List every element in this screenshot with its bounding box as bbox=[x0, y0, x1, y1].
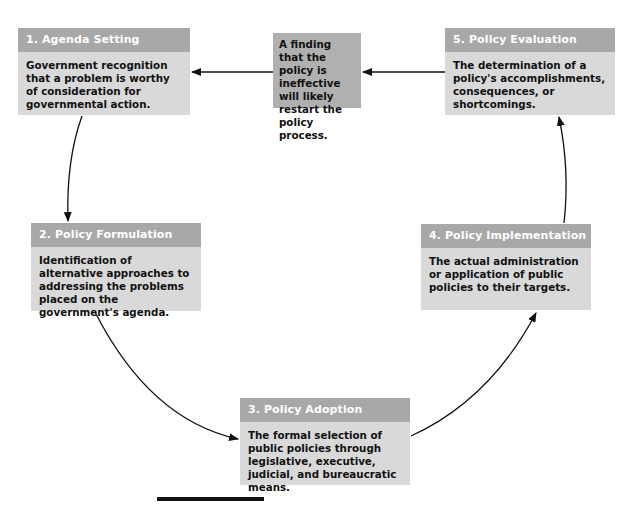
feedback-note: A finding that the policy is ineffective… bbox=[273, 33, 361, 108]
arrow-formulation-to-adoption bbox=[95, 312, 238, 439]
stage-title: 3. Policy Adoption bbox=[240, 398, 410, 422]
stage-description: Government recognition that a problem is… bbox=[18, 52, 190, 117]
stage-description: Identification of alternative approaches… bbox=[31, 247, 201, 325]
stage-policy-adoption: 3. Policy Adoption The formal selection … bbox=[240, 398, 410, 485]
stage-title: 4. Policy Implementation bbox=[421, 224, 591, 248]
stage-policy-formulation: 2. Policy Formulation Identification of … bbox=[31, 223, 201, 311]
stage-description: The determination of a policy's accompli… bbox=[445, 52, 615, 117]
decorative-rule bbox=[157, 497, 264, 501]
stage-title: 1. Agenda Setting bbox=[18, 28, 190, 52]
arrow-agenda-to-formulation bbox=[68, 116, 82, 221]
stage-description: The formal selection of public policies … bbox=[240, 422, 410, 500]
stage-title: 2. Policy Formulation bbox=[31, 223, 201, 247]
stage-policy-implementation: 4. Policy Implementation The actual admi… bbox=[421, 224, 591, 310]
stage-description: The actual administration or application… bbox=[421, 248, 591, 300]
arrow-implementation-to-evaluation bbox=[559, 117, 566, 223]
arrow-adoption-to-implementation bbox=[411, 313, 536, 436]
stage-agenda-setting: 1. Agenda Setting Government recognition… bbox=[18, 28, 190, 115]
stage-title: 5. Policy Evaluation bbox=[445, 28, 615, 52]
stage-policy-evaluation: 5. Policy Evaluation The determination o… bbox=[445, 28, 615, 115]
